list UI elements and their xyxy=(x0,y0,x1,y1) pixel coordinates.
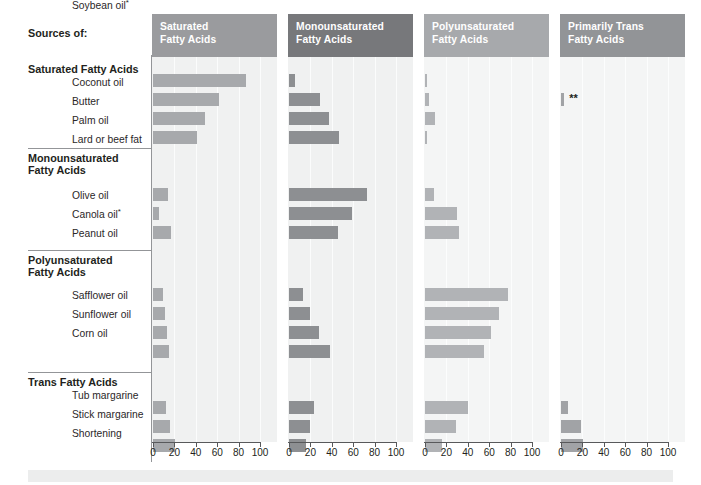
row-label: Soybean oil* xyxy=(72,0,129,12)
bar xyxy=(425,326,491,339)
chart-panel-2: PolyunsaturatedFatty Acids020406080100 xyxy=(424,0,549,462)
row-label: Safflower oil xyxy=(72,290,128,302)
gridline xyxy=(647,57,648,442)
axis-baseline xyxy=(560,442,668,443)
plot-area-1 xyxy=(288,57,413,442)
row-label-column: Sources of: Saturated Fatty AcidsCoconut… xyxy=(0,0,152,462)
bar xyxy=(289,401,314,414)
bar xyxy=(153,74,246,87)
gridline xyxy=(375,57,376,442)
plot-area-3 xyxy=(560,57,685,442)
bar xyxy=(153,326,167,339)
bar xyxy=(153,207,159,220)
row-label: Sunflower oil xyxy=(72,309,131,321)
row-label: Canola oil* xyxy=(72,209,121,221)
bar xyxy=(425,401,468,414)
axis-tick-label: 80 xyxy=(505,447,516,458)
axis-tick-label: 60 xyxy=(348,447,359,458)
bar xyxy=(289,93,320,106)
bar xyxy=(153,401,166,414)
bar xyxy=(425,345,484,358)
row-label: Olive oil xyxy=(72,190,109,202)
gridline xyxy=(489,57,490,442)
bar xyxy=(289,131,339,144)
bar xyxy=(289,307,310,320)
axis-tick-label: 80 xyxy=(641,447,652,458)
axis-tick-label: 0 xyxy=(150,447,156,458)
x-axis-2: 020406080100 xyxy=(424,442,549,462)
axis-tick-label: 20 xyxy=(577,447,588,458)
bar xyxy=(153,226,171,239)
chart-figure: Sources of: Saturated Fatty AcidsCoconut… xyxy=(0,0,701,485)
axis-tick-label: 40 xyxy=(190,447,201,458)
bar xyxy=(425,207,457,220)
bar xyxy=(153,93,219,106)
bar xyxy=(153,345,169,358)
row-label: Tub margarine xyxy=(72,390,139,402)
bar xyxy=(561,401,568,414)
chart-panel-3: Primarily TransFatty Acids**020406080100 xyxy=(560,0,685,462)
bar xyxy=(425,420,456,433)
axis-tick-label: 80 xyxy=(233,447,244,458)
plot-area-0 xyxy=(152,57,277,442)
gridline xyxy=(532,57,533,442)
row-label: Shortening xyxy=(72,428,122,440)
x-axis-1: 020406080100 xyxy=(288,442,413,462)
gridline xyxy=(353,57,354,442)
axis-tick-label: 0 xyxy=(422,447,428,458)
row-label: Stick margarine xyxy=(72,409,144,421)
bar xyxy=(289,345,330,358)
bar xyxy=(425,288,508,301)
row-label: Lard or beef fat xyxy=(72,134,142,146)
row-label: Palm oil xyxy=(72,115,109,127)
bar xyxy=(153,112,205,125)
x-axis-0: 020406080100 xyxy=(152,442,277,462)
bar xyxy=(289,326,319,339)
gridline xyxy=(468,57,469,442)
axis-baseline xyxy=(288,442,396,443)
axis-tick-label: 100 xyxy=(660,447,677,458)
axis-tick-label: 100 xyxy=(388,447,405,458)
bar xyxy=(153,188,168,201)
chart-panel-0: SaturatedFatty Acids020406080100 xyxy=(152,0,277,462)
bar xyxy=(289,207,352,220)
bar xyxy=(425,93,429,106)
bar xyxy=(425,307,499,320)
bar xyxy=(425,226,459,239)
bar xyxy=(289,288,303,301)
axis-tick-label: 100 xyxy=(524,447,541,458)
gridline xyxy=(332,57,333,442)
gridline xyxy=(625,57,626,442)
bar xyxy=(289,188,367,201)
axis-tick-label: 40 xyxy=(462,447,473,458)
gridline xyxy=(217,57,218,442)
chart-panel-1: MonounsaturatedFatty Acids020406080100 xyxy=(288,0,413,462)
bar xyxy=(425,74,427,87)
axis-tick-label: 0 xyxy=(558,447,564,458)
row-label: Coconut oil xyxy=(72,77,124,89)
axis-tick-label: 60 xyxy=(620,447,631,458)
bar xyxy=(289,74,295,87)
row-label: Peanut oil xyxy=(72,228,118,240)
footer-band xyxy=(28,470,673,482)
axis-tick-label: 100 xyxy=(252,447,269,458)
gridline xyxy=(511,57,512,442)
group-heading-3: Trans Fatty Acids xyxy=(28,376,118,388)
axis-tick-label: 40 xyxy=(598,447,609,458)
gridline xyxy=(668,57,669,442)
bar xyxy=(289,226,338,239)
gridline xyxy=(396,57,397,442)
bar xyxy=(153,420,170,433)
bar xyxy=(425,112,435,125)
axis-tick-label: 20 xyxy=(441,447,452,458)
row-label: Butter xyxy=(72,96,99,108)
axis-baseline xyxy=(424,442,532,443)
page-title: Sources of: xyxy=(28,27,87,39)
panel-header-0: SaturatedFatty Acids xyxy=(152,14,277,57)
bar xyxy=(561,93,564,106)
gridline xyxy=(260,57,261,442)
axis-tick-label: 80 xyxy=(369,447,380,458)
gridline xyxy=(604,57,605,442)
bar xyxy=(153,131,197,144)
axis-tick-label: 40 xyxy=(326,447,337,458)
